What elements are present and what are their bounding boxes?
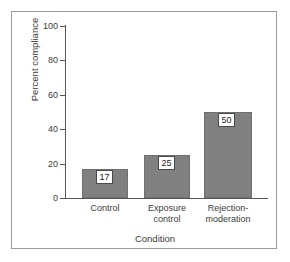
y-tick-60 xyxy=(60,95,65,96)
y-axis-title: Percent compliance xyxy=(29,0,40,135)
x-axis-title: Condition xyxy=(95,233,215,244)
bar-value-label-exposure-control: 25 xyxy=(158,156,175,170)
bar-value-label-rejection-moderation: 50 xyxy=(218,113,235,127)
y-tick-label-0: 0 xyxy=(32,194,58,203)
y-tick-0 xyxy=(60,198,65,199)
y-tick-40 xyxy=(60,129,65,130)
x-category-rejection-moderation-line1: Rejection- xyxy=(189,203,267,214)
y-axis-line xyxy=(65,25,66,199)
x-category-rejection-moderation-line2: moderation xyxy=(189,214,267,225)
bar-value-label-control: 17 xyxy=(96,170,113,184)
y-tick-20 xyxy=(60,164,65,165)
y-tick-80 xyxy=(60,60,65,61)
bar-chart-figure: 100 80 60 40 20 0 Percent compliance 17 … xyxy=(0,0,290,262)
x-category-rejection-moderation: Rejection- moderation xyxy=(189,203,267,225)
y-tick-label-20: 20 xyxy=(32,160,58,169)
x-axis-line xyxy=(66,198,268,199)
y-tick-100 xyxy=(60,26,65,27)
